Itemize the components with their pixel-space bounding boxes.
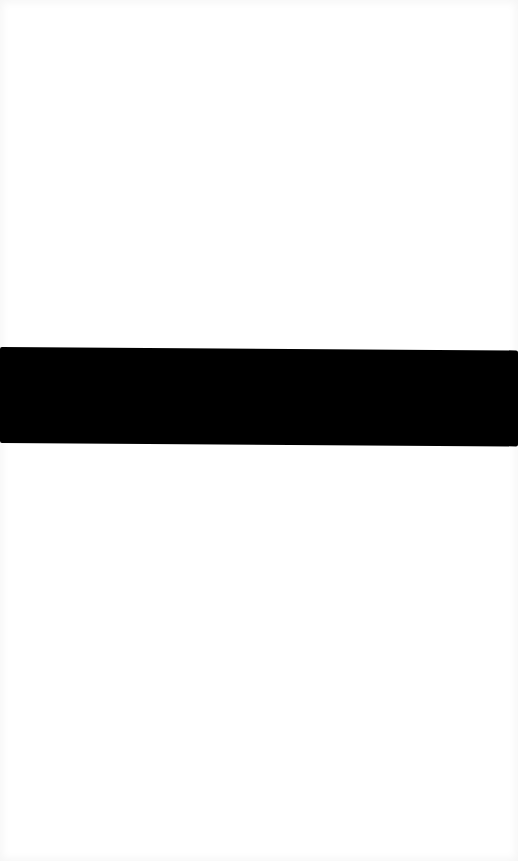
blank-top-area: [0, 0, 518, 347]
screen: [0, 0, 518, 861]
blank-bottom-area: [0, 446, 518, 861]
black-band-overlay: [0, 347, 518, 446]
